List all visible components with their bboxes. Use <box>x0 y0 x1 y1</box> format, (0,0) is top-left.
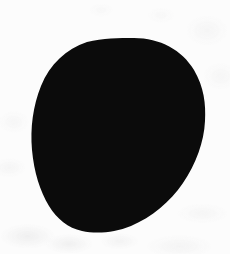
blob-silhouette-svg <box>0 0 230 254</box>
blob-silhouette-path <box>31 38 205 233</box>
image-canvas: Solid black rounded blob silhouette on o… <box>0 0 230 254</box>
blob-silhouette-layer <box>0 0 230 254</box>
